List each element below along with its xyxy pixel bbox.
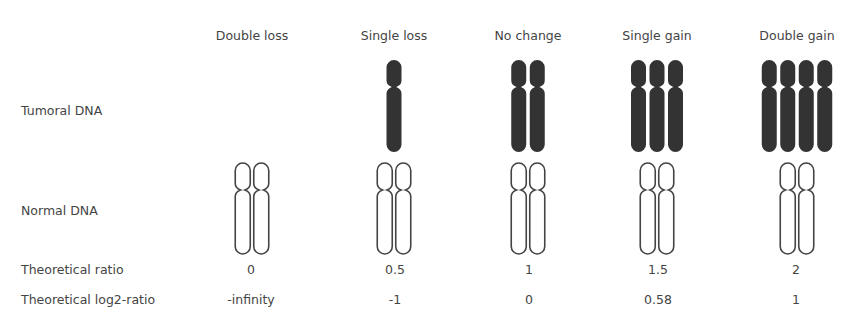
- normal-chromosome-single-gain-1: [640, 163, 655, 254]
- normal-chromosome-double-loss-2: [254, 163, 269, 254]
- tumoral-chromosome-single-gain-2: [650, 60, 665, 152]
- tumoral-chromosome-single-gain-1: [631, 60, 646, 152]
- tumoral-chromosome-double-gain-4: [817, 60, 832, 152]
- normal-chromosome-double-gain-1: [780, 163, 795, 254]
- normal-chromosome-no-change-1: [511, 163, 526, 254]
- tumoral-chromosomes: [387, 60, 833, 152]
- normal-chromosome-single-gain-2: [659, 163, 674, 254]
- tumoral-chromosome-single-loss-1: [387, 60, 402, 152]
- tumoral-chromosome-no-change-1: [511, 60, 526, 152]
- normal-chromosomes: [235, 163, 814, 254]
- tumoral-chromosome-no-change-2: [530, 60, 545, 152]
- tumoral-chromosome-double-gain-1: [762, 60, 777, 152]
- normal-chromosome-double-loss-1: [235, 163, 250, 254]
- normal-chromosome-no-change-2: [530, 163, 545, 254]
- normal-chromosome-single-loss-1: [377, 163, 392, 254]
- normal-chromosome-double-gain-2: [799, 163, 814, 254]
- chromosome-diagram: [0, 0, 854, 326]
- tumoral-chromosome-single-gain-3: [668, 60, 683, 152]
- tumoral-chromosome-double-gain-3: [799, 60, 814, 152]
- tumoral-chromosome-double-gain-2: [780, 60, 795, 152]
- normal-chromosome-single-loss-2: [396, 163, 411, 254]
